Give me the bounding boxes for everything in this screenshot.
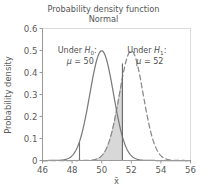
y-axis-label: Probability density: [3, 56, 13, 134]
chart-title: Probability density function: [48, 4, 160, 14]
x-tick-label: 48: [67, 165, 78, 175]
h0-annotation-line2: μ = 50: [66, 57, 94, 66]
x-tick-label: 50: [96, 165, 107, 175]
x-tick-label: 46: [37, 165, 48, 175]
x-tick-label: 56: [185, 165, 196, 175]
y-tick-label: 0.5: [24, 46, 38, 56]
y-tick-label: 0.4: [24, 68, 38, 78]
probability-density-chart: Probability density function Normal 00.1…: [0, 0, 207, 190]
x-axis-label: x̄: [114, 176, 119, 186]
y-tick-label: 0.6: [24, 24, 38, 34]
x-tick-label: 52: [126, 165, 137, 175]
chart-figure: Probability density function Normal 00.1…: [0, 0, 207, 190]
x-tick-label: 54: [155, 165, 166, 175]
y-tick-label: 0: [32, 156, 37, 166]
chart-subtitle: Normal: [89, 14, 119, 24]
y-tick-label: 0.2: [24, 112, 38, 122]
h1-annotation-line2: μ = 52: [135, 57, 163, 66]
y-tick-label: 0.1: [24, 134, 38, 144]
y-tick-label: 0.3: [24, 90, 38, 100]
